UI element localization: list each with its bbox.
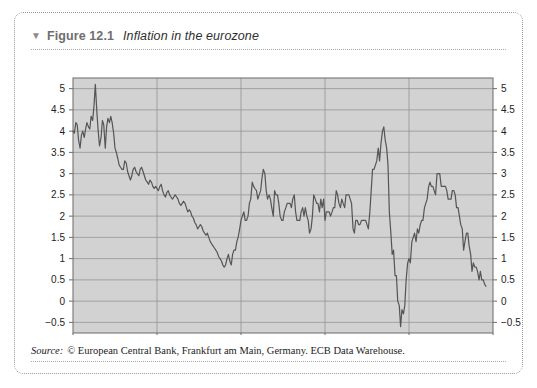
svg-text:2.5: 2.5 <box>51 189 65 200</box>
svg-text:3.5: 3.5 <box>51 147 65 158</box>
chart-plot: −0.500.511.522.533.544.55 −0.500.511.522… <box>15 55 522 335</box>
svg-text:1: 1 <box>59 253 65 264</box>
svg-text:2: 2 <box>501 211 507 222</box>
figure-card: ▼ Figure 12.1 Inflation in the eurozone … <box>14 12 523 374</box>
header-divider <box>31 49 506 50</box>
svg-text:0: 0 <box>59 296 65 307</box>
svg-text:4.5: 4.5 <box>51 104 65 115</box>
svg-text:3.5: 3.5 <box>501 147 515 158</box>
plot-background <box>73 78 493 333</box>
svg-text:2: 2 <box>59 211 65 222</box>
svg-text:−0.5: −0.5 <box>501 317 521 328</box>
figure-header: ▼ Figure 12.1 Inflation in the eurozone <box>31 25 506 47</box>
svg-text:−0.5: −0.5 <box>45 317 65 328</box>
figure-source: Source: © European Central Bank, Frankfu… <box>31 340 508 358</box>
svg-text:2.5: 2.5 <box>501 189 515 200</box>
svg-text:4: 4 <box>59 126 65 137</box>
svg-text:0.5: 0.5 <box>51 274 65 285</box>
svg-text:1.5: 1.5 <box>501 232 515 243</box>
y-axis-labels-left: −0.500.511.522.533.544.55 <box>45 83 65 328</box>
source-label: Source: <box>31 345 63 356</box>
svg-text:5: 5 <box>59 83 65 94</box>
figure-number: Figure 12.1 <box>47 29 114 43</box>
svg-text:0.5: 0.5 <box>501 274 515 285</box>
collapse-triangle-icon[interactable]: ▼ <box>31 31 41 41</box>
figure-title: Inflation in the eurozone <box>123 29 259 43</box>
source-text: © European Central Bank, Frankfurt am Ma… <box>67 345 405 356</box>
svg-text:1: 1 <box>501 253 507 264</box>
svg-text:5: 5 <box>501 83 507 94</box>
y-axis-labels-right: −0.500.511.522.533.544.55 <box>501 83 521 328</box>
footer-divider <box>31 361 506 362</box>
inflation-line-chart: −0.500.511.522.533.544.55 −0.500.511.522… <box>15 55 522 335</box>
svg-text:3: 3 <box>59 168 65 179</box>
svg-text:3: 3 <box>501 168 507 179</box>
svg-text:0: 0 <box>501 296 507 307</box>
svg-text:1.5: 1.5 <box>51 232 65 243</box>
svg-text:4: 4 <box>501 126 507 137</box>
svg-text:4.5: 4.5 <box>501 104 515 115</box>
